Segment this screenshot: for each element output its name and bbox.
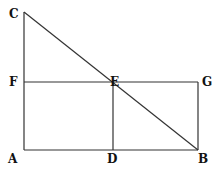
label-G: G (202, 75, 212, 89)
label-A: A (7, 152, 18, 166)
label-C: C (9, 7, 19, 21)
label-F: F (9, 75, 18, 89)
label-E: E (110, 75, 119, 89)
label-D: D (107, 152, 117, 166)
geometry-diagram: C F E G A D B (0, 0, 219, 175)
label-B: B (198, 152, 208, 166)
